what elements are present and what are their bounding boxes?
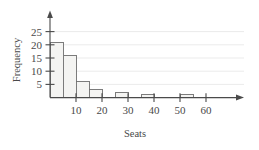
y-axis-title: Frequency xyxy=(11,37,22,82)
bar-bin-0-5 xyxy=(50,42,63,97)
bar-bin-10-15 xyxy=(76,82,89,98)
histogram-figure: 25 20 15 10 5 10 20 30 40 50 60 Frequenc… xyxy=(0,0,259,150)
y-tick-label-25: 25 xyxy=(31,26,43,38)
bar-bin-15-20 xyxy=(89,90,102,98)
x-tick-label-50: 50 xyxy=(175,104,187,116)
y-tick-label-5: 5 xyxy=(37,78,43,90)
x-tick-label-10: 10 xyxy=(71,104,83,116)
bar-bin-25-30 xyxy=(115,92,128,97)
bar-bin-5-10 xyxy=(63,55,76,97)
histogram-chart: 25 20 15 10 5 10 20 30 40 50 60 Frequenc… xyxy=(0,0,259,150)
y-tick-label-15: 15 xyxy=(31,52,43,64)
x-axis-title: Seats xyxy=(124,128,146,139)
x-tick-label-30: 30 xyxy=(123,104,135,116)
x-tick-label-40: 40 xyxy=(149,104,161,116)
x-tick-label-60: 60 xyxy=(201,104,213,116)
x-tick-label-20: 20 xyxy=(97,104,109,116)
y-tick-label-10: 10 xyxy=(31,65,43,77)
y-tick-label-20: 20 xyxy=(31,39,43,51)
